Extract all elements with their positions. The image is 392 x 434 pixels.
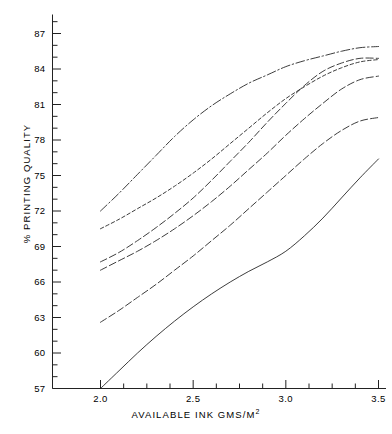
x-axis-tick-label: 3.0	[266, 393, 306, 404]
x-axis-tick-label: 3.5	[359, 393, 392, 404]
y-axis-tick-label: 87	[13, 28, 46, 39]
y-axis-tick-label: 69	[13, 241, 46, 252]
y-axis-tick-label: 57	[13, 383, 46, 394]
chart-line-curve-4-long-dash	[101, 76, 379, 270]
y-axis-tick-label: 60	[13, 347, 46, 358]
y-axis-tick-label: 72	[13, 205, 46, 216]
chart-plot-area	[0, 0, 392, 434]
x-axis-label: AVAILABLE INK GMS/M2	[0, 408, 392, 420]
y-axis-tick-label: 78	[13, 134, 46, 145]
chart-line-curve-1-top	[101, 47, 379, 211]
y-axis-tick-label: 75	[13, 170, 46, 181]
x-axis-label-text: AVAILABLE INK GMS/M	[131, 409, 255, 420]
x-axis-tick-label: 2.0	[81, 393, 121, 404]
y-axis-tick-label: 81	[13, 99, 46, 110]
x-axis-tick-label: 2.5	[173, 393, 213, 404]
chart-line-curve-5-long-dash	[101, 118, 379, 323]
chart-figure: % PRINTING QUALITY AVAILABLE INK GMS/M2 …	[0, 0, 392, 434]
y-axis-tick-label: 63	[13, 312, 46, 323]
y-axis-tick-label: 66	[13, 276, 46, 287]
x-axis-label-superscript: 2	[256, 408, 261, 415]
y-axis-tick-label: 84	[13, 63, 46, 74]
chart-line-curve-6-solid	[101, 159, 379, 389]
